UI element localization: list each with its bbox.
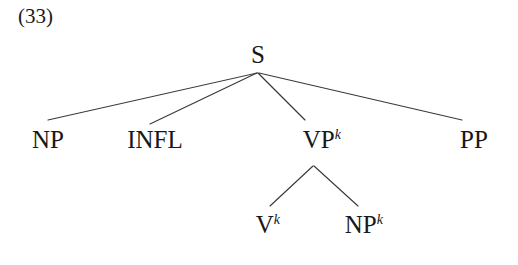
tree-node-v-superscript: k	[274, 212, 280, 227]
tree-edge-s-pp	[259, 73, 462, 120]
tree-node-s-label: S	[251, 41, 265, 68]
tree-node-v: Vk	[256, 212, 280, 237]
tree-edge-s-infl	[150, 73, 257, 124]
tree-node-np: NP	[32, 127, 64, 152]
tree-edge-vp-npk	[314, 166, 358, 206]
tree-node-infl-label: INFL	[127, 126, 183, 153]
tree-edge-s-np	[48, 73, 257, 120]
tree-node-vp: VPk	[303, 127, 341, 152]
tree-edge-s-vp	[258, 73, 305, 120]
tree-node-pp: PP	[460, 127, 488, 152]
tree-node-v-label: V	[256, 211, 274, 238]
tree-node-vp-label: VP	[303, 126, 335, 153]
tree-edge-vp-v	[270, 166, 313, 206]
tree-node-np-label: NP	[32, 126, 64, 153]
tree-node-vp-superscript: k	[335, 127, 341, 142]
tree-node-npk: NPk	[345, 212, 383, 237]
tree-node-npk-label: NP	[345, 211, 377, 238]
tree-node-pp-label: PP	[460, 126, 488, 153]
tree-node-npk-superscript: k	[377, 212, 383, 227]
tree-node-s: S	[251, 42, 265, 67]
tree-node-infl: INFL	[127, 127, 183, 152]
figure-canvas: (33) S NP INFL VPk PP Vk NPk	[0, 0, 518, 265]
